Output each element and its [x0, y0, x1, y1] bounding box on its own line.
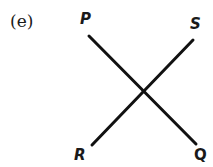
point-label-r: R [74, 146, 86, 164]
point-label-s: S [190, 15, 201, 33]
point-label-q: Q [194, 146, 207, 164]
intersecting-lines-diagram [0, 0, 213, 167]
point-label-p: P [80, 10, 91, 28]
